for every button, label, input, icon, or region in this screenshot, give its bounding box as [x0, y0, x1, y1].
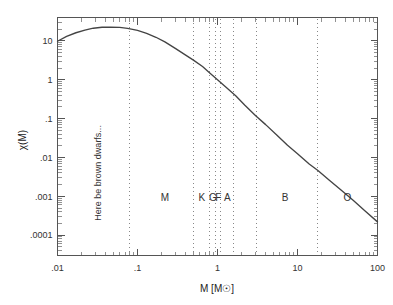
chart-figure: 101.1.01.001.0001 .01.1110100 MKGFABO He… — [0, 0, 393, 305]
spectral-class-label-f: F — [215, 192, 221, 203]
mass-function-plot: 101.1.01.001.0001 .01.1110100 MKGFABO He… — [0, 0, 393, 305]
plot-annotations: Here be brown dwarfs... — [93, 125, 103, 221]
x-tick-label: 100 — [370, 263, 385, 273]
x-tick-label: .01 — [51, 263, 64, 273]
x-axis-tick-labels: .01.1110100 — [51, 263, 385, 273]
spectral-class-labels: MKGFABO — [161, 192, 352, 203]
y-axis-tick-labels: 101.1.01.001.0001 — [30, 36, 53, 240]
spectral-class-label-m: M — [161, 192, 169, 203]
spectral-class-label-o: O — [343, 192, 351, 203]
x-tick-label: 1 — [215, 263, 220, 273]
spectral-class-label-b: B — [282, 192, 289, 203]
spectral-class-dividers — [130, 19, 318, 255]
spectral-class-label-k: K — [198, 192, 205, 203]
plot-frame — [58, 18, 378, 256]
x-tick-label: 10 — [292, 263, 302, 273]
y-axis-title: χ(M) — [17, 130, 28, 150]
x-tick-label: .1 — [134, 263, 142, 273]
x-axis-title: M [M☉] — [200, 283, 234, 294]
spectral-class-label-a: A — [224, 192, 231, 203]
minor-tick-marks — [58, 18, 378, 256]
y-tick-label: .1 — [45, 114, 53, 124]
brown-dwarf-annotation: Here be brown dwarfs... — [93, 125, 103, 221]
y-tick-label: 10 — [42, 36, 52, 46]
y-tick-label: 1 — [47, 75, 52, 85]
y-tick-label: .01 — [40, 153, 53, 163]
y-tick-label: .0001 — [30, 230, 53, 240]
y-tick-label: .001 — [35, 192, 53, 202]
major-tick-marks — [58, 18, 378, 256]
